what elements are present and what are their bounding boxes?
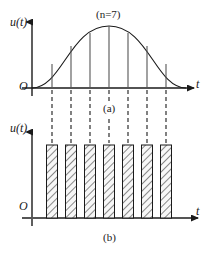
sample-count-annotation: (n=7) — [96, 9, 121, 20]
panel-a-sample-lines — [52, 26, 166, 88]
figure-svg — [0, 0, 221, 253]
panel-a-x-axis-label: t — [196, 78, 199, 90]
pulse-bar — [47, 145, 58, 218]
pulse-bar — [85, 145, 96, 218]
panel-a-dashed-guides — [52, 90, 166, 143]
pulse-bar — [104, 145, 115, 218]
panel-a-group — [22, 22, 194, 143]
pulse-bar — [123, 145, 134, 218]
panel-b-origin-label: O — [19, 200, 28, 212]
panel-a-origin-label: O — [19, 80, 28, 92]
panel-b-group — [22, 132, 198, 226]
panel-b-caption: (b) — [103, 232, 116, 243]
panel-a-caption: (a) — [103, 103, 115, 114]
panel-b-bars — [47, 145, 172, 218]
panel-b-y-axis-label: u(t) — [10, 122, 27, 134]
panel-b-x-axis-label: t — [196, 205, 199, 217]
pulse-bar — [142, 145, 153, 218]
panel-a-y-axis-label: u(t) — [10, 16, 27, 28]
pulse-bar — [66, 145, 77, 218]
figure-container: u(t) O t (n=7) (a) u(t) O t (b) — [0, 0, 221, 253]
pulse-bar — [161, 145, 172, 218]
